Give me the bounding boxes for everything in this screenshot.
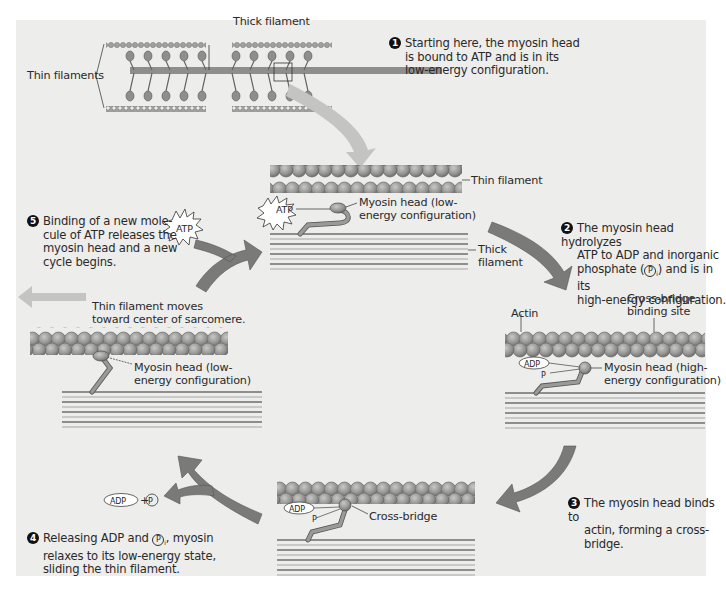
step-number-badge: 4 xyxy=(27,532,39,544)
myosin-high-label: Myosin head (high- energy configuration) xyxy=(604,361,721,388)
atp-label: ATP xyxy=(276,203,293,216)
thin-filament-label: Thin filament xyxy=(471,174,542,187)
atp-new-label: ATP xyxy=(176,222,193,235)
phosphate-symbol: P xyxy=(152,534,164,546)
cross-bridge-label: Cross-bridge xyxy=(369,510,437,523)
movement-arrow xyxy=(18,286,86,308)
thin-filaments-overview-label: Thin filaments xyxy=(27,69,104,82)
thick-filament-overview-label: Thick filament xyxy=(233,15,310,28)
pi-label-step2: P xyxy=(541,369,546,382)
myosin-low-label-left: Myosin head (low- energy configuration) xyxy=(134,361,251,388)
step-1-caption: 1Starting here, the myosin head is bound… xyxy=(389,37,589,78)
pi-released-label: P xyxy=(148,495,153,508)
step-number-badge: 2 xyxy=(561,222,573,234)
adp-released-label: ADP xyxy=(110,495,126,508)
release-branch-arrow xyxy=(164,483,214,504)
pi-label-step3: P xyxy=(312,513,317,526)
myosin-low-label: Myosin head (low- energy configuration) xyxy=(359,196,476,223)
cycle-arrow-5-to-1 xyxy=(194,240,262,292)
adp-label-step2: ADP xyxy=(524,358,540,371)
adp-label-step3: ADP xyxy=(289,503,305,516)
cross-bridge-binding-site-label: Cross-bridge binding site xyxy=(627,292,695,319)
scene-step-3 xyxy=(277,478,475,575)
phosphate-symbol: P xyxy=(644,265,656,277)
cycle-arrow-2-to-3 xyxy=(496,446,576,512)
step-4-caption: 4Releasing ADP and Pi, myosin relaxes to… xyxy=(27,532,227,577)
thick-filament-label: Thick filament xyxy=(478,243,523,270)
step-3-caption: 3The myosin head binds to actin, forming… xyxy=(568,497,726,551)
step-5-caption: 5Binding of a new mole- cule of ATP rele… xyxy=(27,215,187,269)
step-number-badge: 3 xyxy=(568,497,580,509)
step-number-badge: 1 xyxy=(389,37,401,49)
movement-label: Thin filament moves toward center of sar… xyxy=(92,300,245,327)
actin-label: Actin xyxy=(511,307,538,320)
step-number-badge: 5 xyxy=(27,215,39,227)
big-transition-arrow xyxy=(286,84,376,168)
